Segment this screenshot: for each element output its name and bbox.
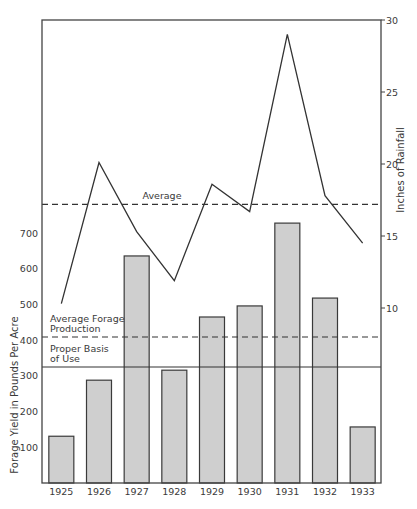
bar-1928 xyxy=(162,370,187,483)
reference-label-1-1: Production xyxy=(50,323,101,334)
x-tick-1929: 1929 xyxy=(200,486,224,497)
rainfall-line xyxy=(61,34,362,303)
bar-1930 xyxy=(237,306,262,483)
reference-label-2-1: of Use xyxy=(50,353,80,364)
x-tick-1930: 1930 xyxy=(238,486,262,497)
left-tick-500: 500 xyxy=(20,299,38,310)
left-axis-ticks: 100200300400500600700 xyxy=(20,228,38,453)
x-tick-1927: 1927 xyxy=(125,486,149,497)
x-tick-1932: 1932 xyxy=(313,486,337,497)
left-tick-100: 100 xyxy=(20,442,38,453)
right-axis-label: Inches of Rainfall xyxy=(395,127,406,213)
bar-1929 xyxy=(200,317,225,483)
left-tick-700: 700 xyxy=(20,228,38,239)
x-axis-ticks: 192519261927192819291930193119321933 xyxy=(49,486,375,497)
x-tick-1928: 1928 xyxy=(162,486,186,497)
left-tick-300: 300 xyxy=(20,370,38,381)
bar-1932 xyxy=(313,298,338,483)
left-axis-label: Forage Yield in Pounds Per Acre xyxy=(9,316,20,473)
right-tick-10: 10 xyxy=(386,303,398,314)
x-tick-1933: 1933 xyxy=(351,486,375,497)
right-tick-15: 15 xyxy=(386,231,398,242)
x-tick-1926: 1926 xyxy=(87,486,111,497)
bar-1927 xyxy=(124,256,149,483)
x-tick-1925: 1925 xyxy=(49,486,73,497)
reference-label-average-rainfall: Average xyxy=(142,190,181,201)
bar-1933 xyxy=(350,427,375,483)
left-tick-400: 400 xyxy=(20,335,38,346)
right-tick-30: 30 xyxy=(386,15,398,26)
forage-rainfall-chart: AverageAverage ForageProductionProper Ba… xyxy=(0,0,417,509)
rainfall-polyline xyxy=(61,34,362,303)
x-tick-1931: 1931 xyxy=(275,486,299,497)
bar-1925 xyxy=(49,436,74,483)
right-tick-25: 25 xyxy=(386,87,398,98)
bar-1926 xyxy=(87,380,112,483)
bar-1931 xyxy=(275,223,300,483)
left-tick-200: 200 xyxy=(20,406,38,417)
left-tick-600: 600 xyxy=(20,263,38,274)
